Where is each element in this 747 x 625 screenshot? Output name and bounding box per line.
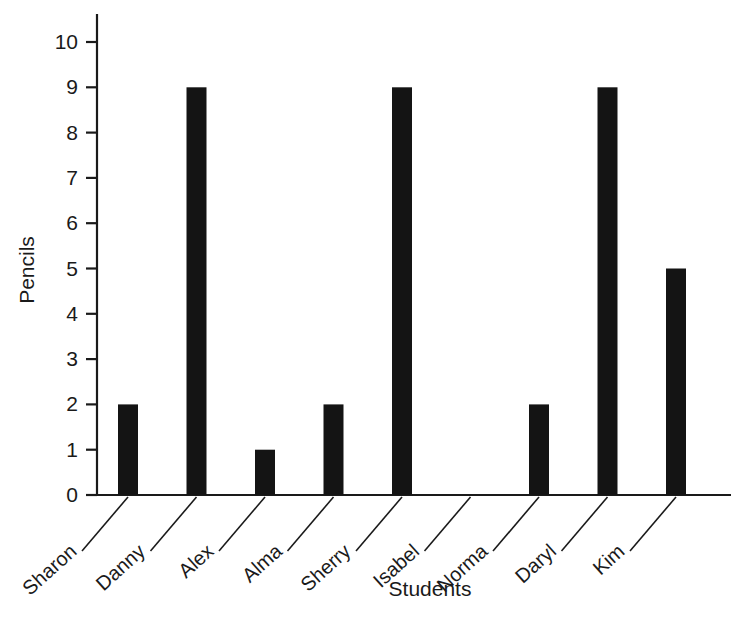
x-axis-title: Students [389,577,472,600]
chart-canvas: 012345678910 Pencils SharonDannyAlexAlma… [0,0,747,625]
bar [187,87,207,495]
bar [598,87,618,495]
y-tick-label: 0 [66,483,78,506]
y-tick-label: 8 [66,121,78,144]
y-tick-label: 2 [66,392,78,415]
y-tick-label: 3 [66,347,78,370]
y-tick-label: 1 [66,438,78,461]
y-tick-label: 10 [55,30,78,53]
y-tick-label: 9 [66,75,78,98]
y-tick-label: 6 [66,211,78,234]
bar [666,269,686,496]
bar [255,450,275,495]
bar-chart-figure: 012345678910 Pencils SharonDannyAlexAlma… [0,0,747,625]
bar [392,87,412,495]
bar [324,404,344,495]
bars-group [118,87,686,495]
y-tick-label: 5 [66,257,78,280]
bar [118,404,138,495]
y-tick-label: 7 [66,166,78,189]
y-tick-label: 4 [66,302,78,325]
y-axis-title: Pencils [15,236,38,304]
bar [529,404,549,495]
